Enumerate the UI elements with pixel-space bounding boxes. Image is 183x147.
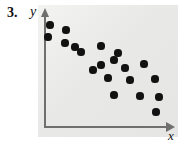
data-point (89, 66, 96, 73)
data-point (97, 42, 104, 49)
data-point (140, 60, 147, 67)
data-point (110, 56, 117, 63)
data-point (152, 108, 159, 115)
arrow-up-icon (41, 8, 49, 17)
data-point (61, 39, 68, 46)
data-point (77, 48, 84, 55)
y-axis-label: y (30, 4, 36, 20)
data-point (62, 26, 69, 33)
data-point (121, 64, 128, 71)
data-point (44, 33, 51, 40)
y-axis-line (44, 15, 46, 128)
data-point (97, 61, 104, 68)
data-point (46, 21, 53, 28)
data-point (151, 75, 158, 82)
data-point (110, 91, 117, 98)
data-point (104, 74, 111, 81)
data-point (136, 92, 143, 99)
x-axis-label: x (168, 128, 174, 143)
plot-background-panel (38, 5, 178, 137)
scatter-plot-figure: 3. y x (0, 0, 183, 147)
x-axis-line (44, 126, 168, 128)
data-point (155, 93, 162, 100)
problem-number-label: 3. (7, 5, 18, 21)
data-point (126, 76, 133, 83)
